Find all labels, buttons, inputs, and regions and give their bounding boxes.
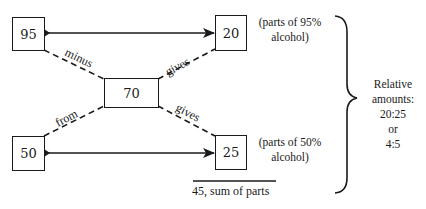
note-parts-95-line1: (parts of 95%: [250, 15, 330, 30]
ratio-line1: Relative: [362, 77, 424, 92]
box-50-percent: 50: [12, 136, 45, 171]
sum-of-parts-label: 45, sum of parts: [192, 184, 269, 199]
ratio-line5: 4:5: [362, 137, 424, 152]
alligation-diagram: minus gives from gives 95 20 70 50 25 (p…: [0, 0, 426, 209]
box-20-parts: 20: [215, 15, 247, 51]
ratio-line4: or: [362, 122, 424, 137]
edge-label-gives-top: gives: [163, 54, 192, 78]
note-parts-50-line1: (parts of 50%: [250, 135, 330, 150]
note-parts-50-line2: alcohol): [250, 150, 330, 165]
box-25-parts: 25: [215, 135, 247, 170]
arrow-95-to-20: [44, 29, 214, 37]
note-parts-95-line2: alcohol): [250, 30, 330, 45]
edge-label-minus: minus: [63, 45, 96, 71]
box-70-target: 70: [104, 78, 159, 108]
curly-brace-icon: [335, 16, 357, 193]
ratio-line3: 20:25: [362, 107, 424, 122]
arrow-50-to-25: [44, 149, 214, 157]
edge-label-from: from: [53, 106, 81, 130]
note-parts-95: (parts of 95% alcohol): [250, 15, 330, 45]
relative-amounts: Relative amounts: 20:25 or 4:5: [362, 77, 424, 152]
box-95-percent: 95: [12, 17, 45, 51]
note-parts-50: (parts of 50% alcohol): [250, 135, 330, 165]
ratio-line2: amounts:: [362, 92, 424, 107]
